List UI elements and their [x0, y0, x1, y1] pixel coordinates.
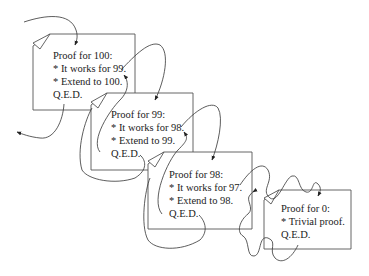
proof-line: * Extend to 98. [169, 195, 233, 206]
proof-line: * Extend to 100. [53, 76, 122, 87]
proof-title: Proof for 99: [111, 109, 165, 120]
proof-line: Q.E.D. [169, 208, 198, 219]
proof-box-0: Proof for 0: * Trivial proof. Q.E.D. [264, 190, 351, 249]
proof-title: Proof for 100: [53, 50, 113, 61]
proof-line: * It works for 99. [53, 63, 126, 74]
proof-line: * Trivial proof. [281, 216, 345, 227]
proof-title: Proof for 0: [281, 203, 330, 214]
proof-line: Q.E.D. [281, 229, 310, 240]
proof-box-98: Proof for 98: * It works for 97. * Exten… [148, 152, 252, 229]
proof-line: * Extend to 99. [111, 135, 175, 146]
proof-line: Q.E.D. [111, 148, 140, 159]
proof-line: * It works for 98. [111, 122, 184, 133]
proof-line: * It works for 97. [169, 182, 242, 193]
proof-line: Q.E.D. [53, 89, 82, 100]
proof-title: Proof for 98: [169, 169, 223, 180]
proof-chain-diagram: Proof for 100: * It works for 99. * Exte… [0, 0, 369, 276]
